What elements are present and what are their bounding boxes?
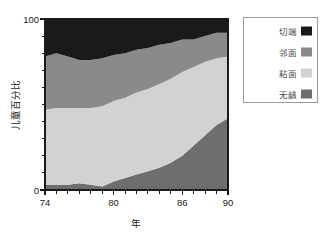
legend-label-粘面: 粘面 bbox=[279, 69, 297, 79]
stacked-area-chart: 100 0 74808690 儿童百分比 年 切端邻面粘面无龋 bbox=[0, 0, 328, 240]
y-tick-label-top: 100 bbox=[23, 14, 39, 25]
x-tick-label-74: 74 bbox=[40, 197, 51, 208]
legend: 切端邻面粘面无龋 bbox=[244, 18, 318, 103]
legend-swatch-切端 bbox=[301, 27, 312, 36]
legend-label-切端: 切端 bbox=[279, 27, 297, 37]
legend-swatch-邻面 bbox=[301, 48, 312, 57]
y-axis-title: 儿童百分比 bbox=[10, 80, 21, 130]
legend-swatch-无龋 bbox=[301, 90, 312, 99]
x-tick-label-90: 90 bbox=[223, 197, 234, 208]
x-axis-title: 年 bbox=[131, 218, 141, 229]
x-tick-label-80: 80 bbox=[108, 197, 119, 208]
area-bands-group bbox=[45, 19, 228, 190]
legend-label-无龋: 无龋 bbox=[279, 90, 297, 100]
y-tick-label-bottom: 0 bbox=[34, 185, 39, 196]
legend-swatch-粘面 bbox=[301, 69, 312, 78]
chart-figure: 100 0 74808690 儿童百分比 年 切端邻面粘面无龋 bbox=[0, 0, 328, 240]
x-tick-label-86: 86 bbox=[177, 197, 188, 208]
legend-label-邻面: 邻面 bbox=[279, 48, 297, 58]
